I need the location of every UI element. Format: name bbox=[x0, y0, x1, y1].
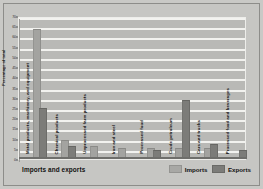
category-label: Chemical products bbox=[55, 114, 60, 154]
bar-imports bbox=[90, 146, 98, 157]
y-axis-tick-mark bbox=[16, 78, 18, 79]
bar-group: Chemical products bbox=[49, 16, 78, 157]
y-axis-tick-label: 20 bbox=[12, 117, 16, 121]
y-axis-tick-mark bbox=[16, 160, 18, 161]
bar-imports bbox=[118, 148, 126, 157]
legend-label-exports: Exports bbox=[228, 166, 251, 173]
y-axis-tick-mark bbox=[16, 119, 18, 120]
bar-group: Processed food bbox=[134, 16, 163, 157]
bar-group: Metal products, machinery, and equipment bbox=[20, 16, 49, 157]
y-axis-tick-mark bbox=[16, 108, 18, 109]
y-axis-tick-label: 70 bbox=[12, 15, 16, 19]
y-axis-tick-mark bbox=[16, 68, 18, 69]
y-axis-tick-label: 40 bbox=[12, 76, 16, 80]
plot-wrapper: Metal products, machinery, and equipment… bbox=[18, 16, 248, 161]
y-axis-title: Percentage of total bbox=[2, 50, 6, 86]
bar-group: Cars and trucks bbox=[191, 16, 220, 157]
category-label: Processed food and beverages bbox=[226, 88, 231, 154]
legend-swatch-exports-icon bbox=[212, 165, 225, 173]
category-label: Unprocessed farm products bbox=[83, 94, 88, 154]
y-axis-tick-mark bbox=[16, 139, 18, 140]
y-axis-tick-mark bbox=[16, 57, 18, 58]
plot-area: Metal products, machinery, and equipment… bbox=[18, 17, 246, 160]
bar-exports bbox=[210, 144, 218, 157]
y-axis-tick-label: 55 bbox=[12, 46, 16, 50]
bar-exports bbox=[153, 150, 161, 157]
bar-group: Iron and steel bbox=[106, 16, 135, 157]
y-axis-tick-label: 65 bbox=[12, 25, 16, 29]
bar-group: Crude petroleum bbox=[163, 16, 192, 157]
y-axis-tick-mark bbox=[16, 149, 18, 150]
category-label: Metal products, machinery, and equipment bbox=[26, 63, 31, 154]
chart-figure: Metal products, machinery, and equipment… bbox=[0, 0, 263, 189]
y-axis-tick-label: 45 bbox=[12, 66, 16, 70]
y-axis-line bbox=[19, 19, 20, 162]
category-label: Cars and trucks bbox=[197, 120, 202, 154]
category-label: Processed food bbox=[140, 120, 145, 154]
y-axis-tick-mark bbox=[16, 47, 18, 48]
y-axis-tick-label: 50 bbox=[12, 56, 16, 60]
y-axis-ticks: 0510152025303540455055606570 bbox=[6, 16, 18, 161]
bar-exports bbox=[39, 108, 47, 157]
bar-series-container: Metal products, machinery, and equipment… bbox=[20, 16, 247, 157]
y-axis-tick-label: 15 bbox=[12, 127, 16, 131]
y-axis-tick-mark bbox=[16, 27, 18, 28]
y-axis-tick-mark bbox=[16, 98, 18, 99]
y-axis-tick-label: 25 bbox=[12, 107, 16, 111]
category-label: Crude petroleum bbox=[169, 118, 174, 154]
x-axis-title: Imports and exports bbox=[22, 166, 85, 174]
y-axis-tick-mark bbox=[16, 17, 18, 18]
y-axis-tick-mark bbox=[16, 88, 18, 89]
bar-group: Unprocessed farm products bbox=[77, 16, 106, 157]
legend-label-imports: Imports bbox=[185, 166, 208, 173]
legend-entry-imports: Imports bbox=[169, 165, 207, 173]
category-label: Iron and steel bbox=[112, 125, 117, 154]
bar-group: Processed food and beverages bbox=[220, 16, 249, 157]
legend-swatch-imports-icon bbox=[169, 165, 182, 173]
y-axis-tick-label: 60 bbox=[12, 35, 16, 39]
bar-exports bbox=[182, 100, 190, 157]
y-axis-tick-label: 0 bbox=[14, 158, 16, 162]
chart-legend: Imports Exports bbox=[169, 165, 251, 173]
y-axis-tick-label: 10 bbox=[12, 138, 16, 142]
y-axis-tick-label: 35 bbox=[12, 87, 16, 91]
bar-exports bbox=[68, 146, 76, 157]
bar-exports bbox=[239, 150, 247, 157]
y-axis-tick-mark bbox=[16, 129, 18, 130]
y-axis-tick-label: 30 bbox=[12, 97, 16, 101]
x-axis-line bbox=[19, 157, 247, 159]
legend-entry-exports: Exports bbox=[212, 165, 251, 173]
y-axis-tick-mark bbox=[16, 37, 18, 38]
y-axis-tick-label: 5 bbox=[14, 148, 16, 152]
